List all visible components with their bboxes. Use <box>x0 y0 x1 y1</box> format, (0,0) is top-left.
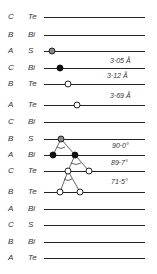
tellurium-atom <box>65 168 71 174</box>
bond-diagram <box>0 0 157 274</box>
tellurium-atom <box>57 189 63 195</box>
tellurium-atom <box>74 102 80 108</box>
bond-distance-label: 3·05 Å <box>110 57 131 64</box>
tellurium-atom <box>65 81 71 87</box>
sulfur-atom <box>49 48 55 54</box>
bismuth-atom <box>72 152 78 158</box>
bismuth-atom <box>50 152 56 158</box>
bond-angle-label: 71·5° <box>111 178 128 185</box>
bond-angle-label: 90·0° <box>112 142 129 149</box>
bond-distance-label: 3·12 Å <box>107 72 128 79</box>
tellurium-atom <box>86 168 92 174</box>
bismuth-atom <box>57 65 63 71</box>
tellurium-atom <box>77 189 83 195</box>
bond-angle-label: 89·7° <box>111 159 128 166</box>
sulfur-atom <box>58 136 64 142</box>
bond-distance-label: 3·69 Å <box>110 92 131 99</box>
